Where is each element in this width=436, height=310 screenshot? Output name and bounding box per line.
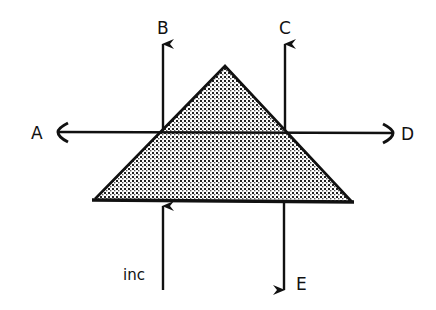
prism-base: [92, 200, 354, 202]
prism: [92, 66, 354, 202]
label-b: B: [157, 18, 169, 38]
label-a: A: [31, 123, 43, 143]
label-d: D: [401, 124, 414, 144]
prism-diagram: B C A D E inc: [0, 0, 436, 310]
label-e: E: [296, 274, 307, 294]
horizontal-ray-a-d: [58, 132, 393, 133]
label-c: C: [279, 18, 291, 38]
label-incident: inc: [123, 266, 145, 284]
prism-fill: [95, 66, 352, 202]
